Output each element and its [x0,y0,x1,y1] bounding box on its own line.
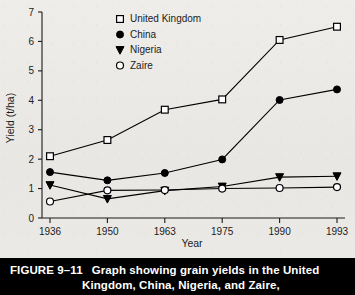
data-point-marker [334,23,341,30]
grain-yield-line-chart: 01234567 193619501963197519901993 Yield … [0,0,355,255]
data-point-marker [219,156,226,163]
y-axis-title: Yield (t/ha) [4,93,16,143]
data-point-marker [47,198,54,205]
data-series-layer [46,23,341,205]
legend-label: Zaire [130,60,153,71]
legend-label: China [130,29,157,40]
y-tick-label: 1 [28,183,34,194]
x-tick-label: 1990 [268,226,291,237]
x-tick-label: 1993 [326,226,349,237]
data-point-marker [161,169,168,176]
x-tick-label: 1963 [154,226,177,237]
data-point-marker [103,195,111,203]
x-tick-label: 1975 [211,226,234,237]
data-point-marker [276,184,283,191]
x-axis: 193619501963197519901993 [39,218,349,237]
figure-number-label: FIGURE 9–11 [10,263,83,278]
series-line [50,27,337,156]
x-tick-label: 1936 [39,226,62,237]
y-tick-label: 3 [28,124,34,135]
data-point-marker [104,137,111,144]
y-tick-label: 7 [28,7,34,18]
legend-marker-icon [117,16,124,23]
data-point-marker [161,106,168,113]
data-point-marker [334,86,341,93]
x-axis-title: Year [181,237,203,249]
legend-marker-icon [116,47,124,55]
legend-item-zaire: Zaire [117,60,154,71]
series-line [50,187,337,201]
chart-plot-area: 01234567 193619501963197519901993 Yield … [0,0,355,255]
data-point-marker [47,169,54,176]
chart-legend: United KingdomChinaNigeriaZaire [116,13,201,71]
x-tick-label: 1950 [96,226,119,237]
legend-marker-icon [117,31,124,38]
legend-item-nigeria: Nigeria [116,44,162,55]
data-point-marker [219,96,226,103]
legend-label: United Kingdom [130,13,201,24]
figure-caption-line-2: Kingdom, China, Nigeria, and Zaire, [10,278,355,293]
data-point-marker [276,37,283,44]
y-tick-label: 4 [28,95,34,106]
data-point-marker [104,187,111,194]
data-point-marker [276,96,283,103]
figure-root: 01234567 193619501963197519901993 Yield … [0,0,355,295]
y-tick-label: 6 [28,36,34,47]
y-tick-label: 2 [28,154,34,165]
y-axis: 01234567 [28,7,42,224]
legend-label: Nigeria [130,44,162,55]
data-point-marker [104,177,111,184]
data-point-marker [47,153,54,160]
figure-caption-line-1: Graph showing grain yields in the United [92,264,320,276]
y-tick-label: 0 [28,213,34,224]
figure-caption-bar: FIGURE 9–11Graph showing grain yields in… [0,258,355,295]
data-point-marker [219,185,226,192]
series-united-kingdom [47,23,341,159]
data-point-marker [161,187,168,194]
y-tick-label: 5 [28,65,34,76]
legend-item-china: China [117,29,157,40]
series-line [50,89,337,180]
data-point-marker [334,184,341,191]
legend-item-united-kingdom: United Kingdom [117,13,202,24]
legend-marker-icon [117,62,124,69]
series-china [47,86,341,184]
